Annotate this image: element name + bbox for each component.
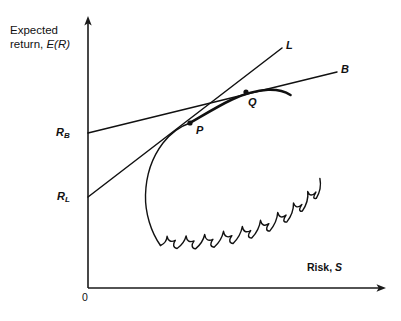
point-dot-q <box>243 89 248 94</box>
x-axis-title: Risk, S <box>307 261 342 273</box>
point-dot-p <box>187 120 192 125</box>
y-axis-title: Expectedreturn, E(R) <box>10 24 70 51</box>
lending-line-L <box>88 48 282 197</box>
point-label-q: Q <box>248 96 257 109</box>
point-label-p: P <box>196 124 203 137</box>
line-label-l: L <box>286 39 293 52</box>
borrowing-line-B <box>88 72 337 133</box>
axes-group <box>84 16 386 292</box>
feasible-set-group <box>145 90 320 249</box>
origin-label: 0 <box>82 291 88 303</box>
frontier-lower-scalloped-boundary <box>161 179 321 249</box>
y-axis-title-line1: Expected <box>10 24 58 36</box>
tick-label-rl-symbol: R <box>57 190 65 202</box>
y-axis-title-symbol: E(R) <box>46 38 70 50</box>
capital-market-lines-group <box>88 48 337 197</box>
y-axis-title-line2-prefix: return, <box>10 38 46 50</box>
efficient-frontier-segment <box>189 90 291 124</box>
line-label-b: B <box>341 63 349 76</box>
frontier-upper-left-boundary <box>145 123 190 246</box>
tick-label-rb-subscript: B <box>64 131 70 140</box>
x-axis-title-symbol: S <box>335 261 342 273</box>
diagram-canvas: Expectedreturn, E(R) Risk, S 0 RB RL L B… <box>0 0 401 321</box>
tick-label-rb: RB <box>56 126 70 140</box>
tick-label-rl-subscript: L <box>65 195 70 204</box>
tick-label-rl: RL <box>57 190 70 204</box>
x-axis-title-prefix: Risk, <box>307 261 335 273</box>
tick-label-rb-symbol: R <box>56 126 64 138</box>
